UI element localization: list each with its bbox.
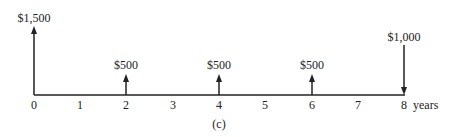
axis-tick-label: 0 bbox=[31, 99, 37, 111]
axis-tick-label: 8 bbox=[401, 99, 407, 111]
arrow-down-icon bbox=[401, 45, 407, 95]
arrow-up-icon bbox=[309, 74, 315, 95]
figure-caption: (c) bbox=[212, 118, 225, 130]
axis-tick-label: 2 bbox=[123, 99, 129, 111]
axis-tick-label: 6 bbox=[309, 99, 315, 111]
axis-tick-label: 3 bbox=[170, 99, 176, 111]
axis-tick-label: 5 bbox=[262, 99, 268, 111]
axis-tick-label: 4 bbox=[216, 99, 222, 111]
axis-unit-label: years bbox=[413, 99, 438, 111]
arrow-up-icon bbox=[123, 74, 129, 95]
arrow-up-icon bbox=[31, 26, 37, 95]
cash-flow-label: $1,500 bbox=[18, 12, 51, 24]
cash-flow-label: $500 bbox=[300, 59, 324, 71]
cash-flow-label: $1,000 bbox=[388, 31, 421, 43]
cash-flow-label: $500 bbox=[207, 59, 231, 71]
axis-tick-label: 7 bbox=[355, 99, 361, 111]
axis-tick-label: 1 bbox=[77, 99, 83, 111]
arrow-up-icon bbox=[216, 74, 222, 95]
cash-flow-label: $500 bbox=[114, 59, 138, 71]
